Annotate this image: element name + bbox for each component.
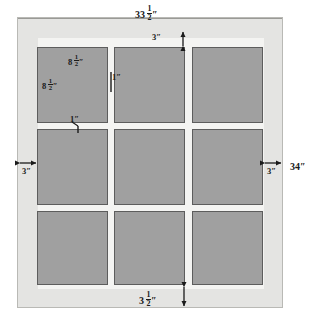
pane-r2c2 bbox=[114, 129, 185, 205]
label-pane-height: 812″ bbox=[42, 78, 57, 92]
label-right-margin: 3″ bbox=[267, 167, 276, 176]
pane-r3c1 bbox=[37, 211, 108, 285]
pane-r3c3 bbox=[192, 211, 263, 285]
label-left-margin: 3″ bbox=[22, 167, 31, 176]
pane-r1c3 bbox=[192, 47, 263, 123]
label-top-margin: 3″ bbox=[152, 33, 161, 42]
label-sash-vertical: 1″ bbox=[112, 73, 121, 82]
pane-r1c2 bbox=[114, 47, 185, 123]
label-bottom-margin: 312″ bbox=[139, 291, 157, 307]
pane-r3c2 bbox=[114, 211, 185, 285]
diagram-canvas: 3312″ 3″ 812″ 812″ 1″ 1″ 3″ 3″ 34″ 312″ bbox=[0, 0, 320, 325]
label-top-overall: 3312″ bbox=[135, 5, 158, 21]
pane-r2c1 bbox=[37, 129, 108, 205]
pane-r2c3 bbox=[192, 129, 263, 205]
label-right-overall: 34″ bbox=[290, 162, 306, 172]
label-pane-width: 812″ bbox=[68, 54, 83, 68]
label-sash-horizontal: 1″ bbox=[70, 115, 79, 124]
